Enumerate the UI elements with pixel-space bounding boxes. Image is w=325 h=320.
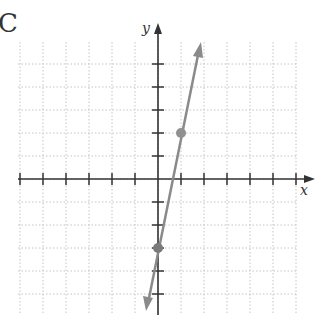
line-arrow-up-icon xyxy=(193,42,203,58)
point-1-2 xyxy=(176,128,186,138)
x-axis xyxy=(18,173,315,185)
y-axis-arrow-icon xyxy=(154,23,162,34)
point-0-neg3 xyxy=(153,243,163,253)
y-axis-label: y xyxy=(141,20,151,36)
coordinate-plane: x y xyxy=(0,0,325,320)
x-axis-label: x xyxy=(300,182,308,198)
line-arrow-down-icon xyxy=(143,296,153,311)
